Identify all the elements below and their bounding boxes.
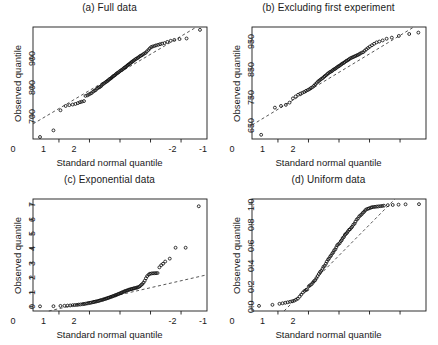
x-tick-label: -2 [168, 144, 176, 154]
x-tick-label: 0 [230, 144, 235, 154]
reference-line [252, 27, 414, 125]
x-tick-label: -1 [199, 144, 207, 154]
x-tick-label: 0 [11, 144, 16, 154]
x-axis-title: Standard normal quantile [219, 157, 438, 168]
x-axis-title: Standard normal quantile [219, 329, 438, 340]
reference-line [284, 199, 395, 311]
x-tick-label: 2 [72, 316, 77, 326]
panel-b: (b) Excluding first experiment -2-101265… [219, 0, 438, 172]
panel-c: (c) Exponential data -2-101201234567Stan… [0, 172, 219, 344]
data-points [39, 205, 201, 308]
y-tick-label: 0.6 [246, 239, 256, 252]
y-tick-label: 7 [27, 202, 37, 207]
y-tick-label: 0.4 [246, 260, 256, 273]
y-tick-label: 900 [27, 51, 37, 66]
y-tick-label: 0 [27, 304, 37, 309]
qq-plot-figure: (a) Full data -2-1012700800900Standard n… [0, 0, 438, 345]
x-tick-label: 2 [291, 316, 296, 326]
x-tick-label: 0 [11, 316, 16, 326]
y-tick-label: 1 [27, 290, 37, 295]
x-tick-label: 1 [260, 144, 265, 154]
y-tick-label: 3 [27, 260, 37, 265]
x-tick-label: -2 [168, 316, 176, 326]
y-tick-label: 4 [27, 246, 37, 251]
y-tick-label: 0.0 [246, 301, 256, 314]
x-axis-title: Standard normal quantile [0, 329, 219, 340]
plot-frame [33, 27, 207, 139]
x-tick-label: 2 [291, 144, 296, 154]
y-tick-label: 950 [246, 33, 256, 48]
y-tick-label: 750 [246, 89, 256, 104]
y-axis-title: Observed quantile [12, 216, 23, 293]
x-tick-label: 2 [72, 144, 77, 154]
panel-a: (a) Full data -2-1012700800900Standard n… [0, 0, 219, 172]
y-axis-title: Observed quantile [12, 44, 23, 121]
x-tick-label: 1 [41, 316, 46, 326]
reference-line [49, 275, 207, 311]
y-tick-label: 0.2 [246, 280, 256, 293]
y-tick-label: 700 [27, 108, 37, 123]
y-tick-label: 800 [27, 80, 37, 95]
y-tick-label: 6 [27, 217, 37, 222]
data-points [260, 31, 420, 136]
panel-c-plot [0, 172, 219, 345]
y-tick-label: 5 [27, 231, 37, 236]
x-tick-label: 1 [41, 144, 46, 154]
x-tick-label: -1 [199, 316, 207, 326]
data-points [39, 28, 202, 138]
x-tick-label: 0 [230, 316, 235, 326]
y-tick-label: 0.8 [246, 219, 256, 232]
x-tick-label: 1 [260, 316, 265, 326]
y-tick-label: 2 [27, 275, 37, 280]
panel-d: (d) Uniform data -2-10120.00.20.40.60.81… [219, 172, 438, 344]
plot-frame [252, 27, 426, 139]
panel-b-plot [219, 0, 438, 172]
y-tick-label: 850 [246, 61, 256, 76]
y-tick-label: 1.0 [246, 198, 256, 211]
y-axis-title: Observed quantile [231, 216, 242, 293]
y-tick-label: 650 [246, 117, 256, 132]
y-axis-title: Observed quantile [231, 44, 242, 121]
x-axis-title: Standard normal quantile [0, 157, 219, 168]
